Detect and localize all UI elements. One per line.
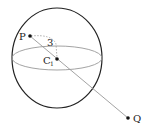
label-q: Q — [133, 113, 141, 124]
label-p: P — [19, 31, 26, 42]
point-p — [28, 34, 32, 38]
point-q — [126, 116, 130, 120]
sphere-diagram: P 3 C 1 Q — [0, 0, 146, 131]
label-distance: 3 — [47, 37, 53, 48]
point-c1 — [55, 57, 59, 61]
label-c-subscript: 1 — [50, 60, 54, 67]
